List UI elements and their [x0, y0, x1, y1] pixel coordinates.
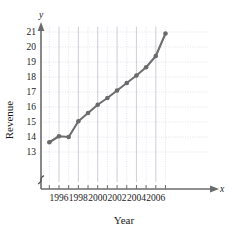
y-tick-label: 13 [27, 147, 37, 157]
x-axis-variable-label: x [219, 184, 225, 194]
y-tick-label: 16 [27, 102, 37, 112]
y-tick-label: 20 [27, 42, 37, 52]
y-tick-label: 14 [27, 132, 37, 142]
data-point [105, 96, 110, 101]
data-point [57, 134, 62, 139]
data-point [144, 65, 149, 70]
data-point [124, 81, 129, 86]
x-tick-label: 1996 [50, 193, 69, 203]
data-point [47, 140, 52, 145]
y-axis-variable-label: y [38, 10, 44, 20]
x-axis-title: Year [114, 214, 135, 226]
x-tick-label: 1998 [69, 193, 88, 203]
y-tick-label: 21 [27, 27, 37, 37]
x-axis-tick-labels: 199619982000200220042006 [50, 193, 166, 203]
x-tick-label: 2000 [88, 193, 107, 203]
data-point [95, 102, 100, 107]
y-tick-label: 18 [27, 72, 37, 82]
data-point [76, 119, 81, 124]
data-point [86, 111, 91, 116]
y-tick-label: 17 [27, 87, 37, 97]
y-tick-label: 19 [27, 57, 37, 67]
x-tick-label: 2006 [146, 193, 165, 203]
data-point [66, 135, 71, 140]
y-tick-label: 15 [27, 117, 37, 127]
y-axis-tick-labels: 131415161718192021 [27, 27, 37, 157]
data-point [154, 54, 159, 59]
x-tick-label: 2004 [127, 193, 146, 203]
data-point [115, 88, 120, 93]
revenue-year-line-chart: 131415161718192021 199619982000200220042… [0, 0, 237, 234]
x-tick-label: 2002 [108, 193, 127, 203]
data-point [134, 73, 139, 78]
y-axis-title: Revenue [3, 101, 15, 140]
data-point [163, 31, 168, 36]
chart-figure: 131415161718192021 199619982000200220042… [0, 0, 237, 234]
